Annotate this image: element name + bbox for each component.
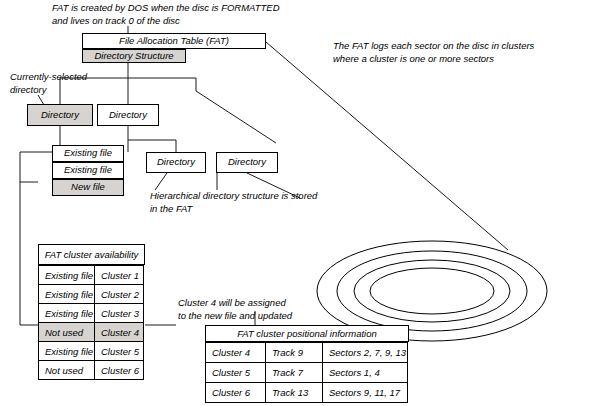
node-existing-file-2[interactable]: Existing file: [52, 162, 124, 179]
note-fat-logs: The FAT logs each sector on the disc in …: [333, 40, 534, 66]
positional-cell-track: Track 9: [265, 342, 323, 363]
note-fat-created: FAT is created by DOS when the disc is F…: [52, 2, 280, 28]
availability-cell-cluster: Cluster 1: [94, 265, 144, 285]
node-sub-directory-right[interactable]: Directory: [216, 152, 278, 173]
availability-cell-status: Existing file: [38, 265, 95, 285]
availability-cell-status: Existing file: [38, 341, 95, 361]
positional-cell-sectors: Sectors 2, 7, 9, 13: [322, 342, 408, 363]
availability-cell-cluster: Cluster 4: [94, 322, 144, 342]
positional-cell-sectors: Sectors 1, 4: [322, 362, 408, 383]
positional-cell-track: Track 7: [265, 362, 323, 383]
node-directory-right[interactable]: Directory: [97, 104, 159, 126]
node-fat-box[interactable]: File Allocation Table (FAT): [82, 33, 266, 49]
positional-cell-sectors: Sectors 9, 11, 17: [322, 382, 408, 403]
availability-cell-status: Not used: [38, 360, 95, 380]
node-existing-file-1[interactable]: Existing file: [52, 145, 124, 162]
node-directory-structure[interactable]: Directory Structure: [82, 49, 186, 63]
availability-cell-status: Existing file: [38, 284, 95, 304]
availability-cell-status: Existing file: [38, 303, 95, 323]
positional-cell-cluster: Cluster 6: [205, 382, 266, 403]
availability-cell-status: Not used: [38, 322, 95, 342]
availability-cell-cluster: Cluster 6: [94, 360, 144, 380]
node-directory-selected[interactable]: Directory: [27, 104, 93, 126]
positional-table-title: FAT cluster positional information: [205, 325, 409, 342]
availability-cell-cluster: Cluster 3: [94, 303, 144, 323]
diagram-canvas: FAT is created by DOS when the disc is F…: [0, 0, 596, 406]
availability-table-title: FAT cluster availability: [38, 244, 145, 265]
note-hierarchical-structure: Hierarchical directory structure is stor…: [150, 190, 317, 216]
positional-cell-track: Track 13: [265, 382, 323, 403]
availability-cell-cluster: Cluster 2: [94, 284, 144, 304]
availability-cell-cluster: Cluster 5: [94, 341, 144, 361]
note-cluster4-assignment: Cluster 4 will be assigned to the new fi…: [178, 297, 292, 323]
node-new-file[interactable]: New file: [52, 179, 124, 196]
node-sub-directory-left[interactable]: Directory: [146, 152, 206, 173]
note-currently-selected-directory: Currently-selected directory: [10, 71, 87, 97]
positional-cell-cluster: Cluster 5: [205, 362, 266, 383]
positional-cell-cluster: Cluster 4: [205, 342, 266, 363]
